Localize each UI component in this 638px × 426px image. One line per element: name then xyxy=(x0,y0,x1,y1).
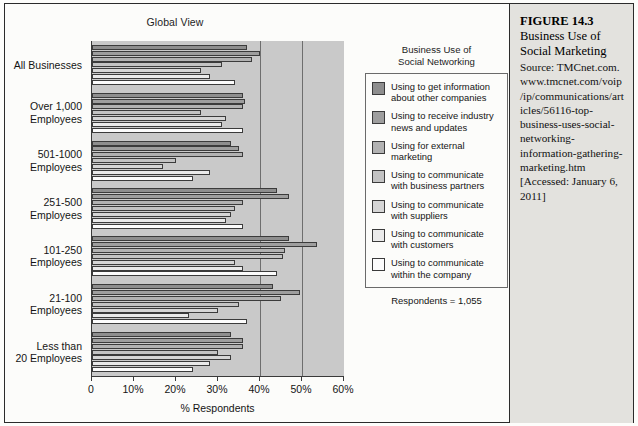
bar xyxy=(92,319,247,324)
bar xyxy=(92,338,243,343)
legend-box: Using to get information about other com… xyxy=(365,73,508,288)
x-axis-tick xyxy=(259,376,260,381)
bar xyxy=(92,57,252,62)
caption-figure-number: FIGURE 14.3 xyxy=(520,14,624,29)
bar-group xyxy=(92,280,344,328)
bar xyxy=(92,218,226,223)
category-label: 501-1000 Employees xyxy=(0,148,82,173)
legend-swatch-icon xyxy=(372,82,385,95)
caption-panel: FIGURE 14.3 Business Use ofSocial Market… xyxy=(509,4,633,423)
bar-group xyxy=(92,89,344,137)
x-axis-title: % Respondents xyxy=(91,402,344,414)
bar xyxy=(92,242,317,247)
x-axis-tick-label: 40% xyxy=(248,383,269,395)
bar xyxy=(92,254,283,259)
bar xyxy=(92,248,285,253)
legend-item: Using to communicate with business partn… xyxy=(372,169,502,191)
legend-item: Using to communicate with customers xyxy=(372,228,502,250)
bar xyxy=(92,212,231,217)
caption-title-line: Social Marketing xyxy=(520,44,624,59)
x-axis-tick xyxy=(301,376,302,381)
legend-swatch-icon xyxy=(372,200,385,213)
bar xyxy=(92,146,239,151)
bar xyxy=(92,164,163,169)
legend-item-label: Using to get information about other com… xyxy=(391,81,490,103)
legend-item: Using to communicate with suppliers xyxy=(372,199,502,221)
bar xyxy=(92,128,243,133)
figure-frame: Global View % Respondents Business Use o… xyxy=(4,3,634,423)
x-axis-tick-label: 60% xyxy=(332,383,353,395)
bar xyxy=(92,367,193,372)
legend: Business Use of Social Networking Using … xyxy=(365,44,508,306)
x-axis-tick-label: 0 xyxy=(88,383,94,395)
bar xyxy=(92,271,277,276)
respondents-note: Respondents = 1,055 xyxy=(365,295,508,306)
bar xyxy=(92,99,245,104)
legend-item-label: Using to communicate with business partn… xyxy=(391,169,484,191)
bar xyxy=(92,74,210,79)
bar xyxy=(92,290,300,295)
bar-group xyxy=(92,41,344,89)
legend-item-label: Using to communicate within the company xyxy=(391,257,484,279)
x-axis-tick-label: 30% xyxy=(206,383,227,395)
bar-group xyxy=(92,137,344,185)
legend-item: Using to communicate within the company xyxy=(372,257,502,279)
bar xyxy=(92,260,235,265)
bar-group xyxy=(92,185,344,233)
legend-heading: Business Use of Social Networking xyxy=(365,44,508,68)
x-axis-tick-label: 50% xyxy=(290,383,311,395)
x-axis-tick xyxy=(343,376,344,381)
category-label: All Businesses xyxy=(0,59,82,72)
bar xyxy=(92,313,189,318)
bar xyxy=(92,302,239,307)
legend-item: Using to receive industry news and updat… xyxy=(372,110,502,132)
bar xyxy=(92,194,289,199)
bar xyxy=(92,116,226,121)
bar xyxy=(92,62,222,67)
plot-area xyxy=(91,41,344,376)
bar xyxy=(92,284,273,289)
bar xyxy=(92,122,222,127)
x-axis-tick-label: 20% xyxy=(164,383,185,395)
x-axis-tick xyxy=(217,376,218,381)
bar xyxy=(92,308,218,313)
bar xyxy=(92,93,243,98)
bar xyxy=(92,170,210,175)
legend-swatch-icon xyxy=(372,170,385,183)
category-label: 21-100 Employees xyxy=(0,292,82,317)
caption-title: Business Use ofSocial Marketing xyxy=(520,29,624,59)
chart-title: Global View xyxy=(10,16,340,28)
bar xyxy=(92,51,260,56)
bar xyxy=(92,68,201,73)
bar xyxy=(92,350,218,355)
caption-source: Source: TMCnet.com. www.tmcnet.com/voip/… xyxy=(520,60,624,203)
bar xyxy=(92,158,176,163)
bar-group xyxy=(92,232,344,280)
bar xyxy=(92,361,210,366)
legend-item: Using for external marketing xyxy=(372,140,502,162)
bar xyxy=(92,236,289,241)
bar xyxy=(92,141,231,146)
figure-container: Global View % Respondents Business Use o… xyxy=(0,0,638,426)
caption-title-line: Business Use of xyxy=(520,29,624,44)
bar xyxy=(92,344,243,349)
category-label: 251-500 Employees xyxy=(0,196,82,221)
legend-swatch-icon xyxy=(372,229,385,242)
bar-group xyxy=(92,328,344,376)
bar xyxy=(92,188,277,193)
bar xyxy=(92,152,243,157)
x-axis-tick xyxy=(175,376,176,381)
bar xyxy=(92,206,235,211)
bar xyxy=(92,332,231,337)
x-axis-tick xyxy=(133,376,134,381)
bar xyxy=(92,110,201,115)
chart-panel: Global View % Respondents Business Use o… xyxy=(10,8,507,425)
bar xyxy=(92,45,247,50)
bar xyxy=(92,104,243,109)
legend-swatch-icon xyxy=(372,258,385,271)
bar xyxy=(92,176,193,181)
category-label: Over 1,000 Employees xyxy=(0,100,82,125)
legend-item-label: Using for external marketing xyxy=(391,140,464,162)
legend-swatch-icon xyxy=(372,111,385,124)
category-label: 101-250 Employees xyxy=(0,244,82,269)
